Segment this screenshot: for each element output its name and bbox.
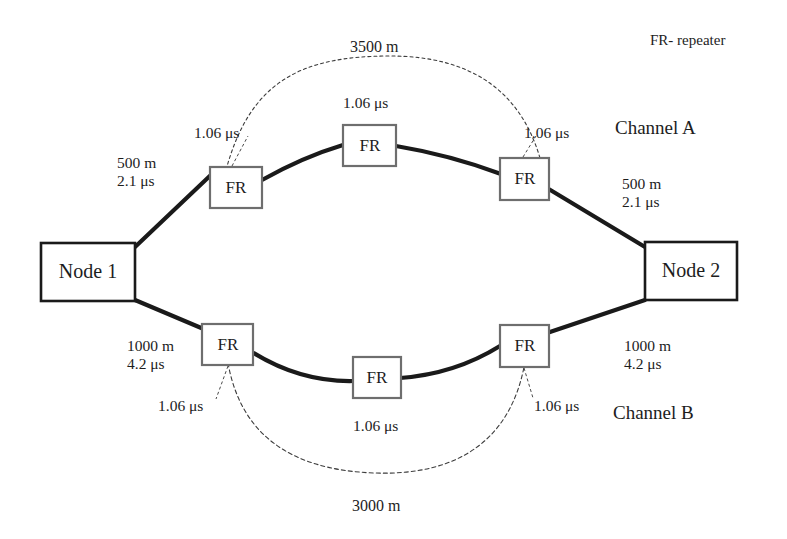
segment-b-right-delay: 4.2 μs bbox=[624, 355, 671, 373]
delay-b-center: 1.06 μs bbox=[353, 417, 398, 435]
node-1-label: Node 1 bbox=[59, 260, 117, 282]
link-a1-to-a2 bbox=[262, 145, 343, 180]
delay-a-left: 1.06 μs bbox=[194, 124, 239, 142]
link-b1-to-b2 bbox=[252, 352, 353, 381]
node-2-label: Node 2 bbox=[662, 259, 720, 281]
repeater-b-center[interactable]: FR bbox=[353, 357, 401, 398]
span-label-channel-b: 3000 m bbox=[352, 497, 400, 516]
link-b3-to-node2 bbox=[547, 300, 645, 333]
segment-b-left: 1000 m 4.2 μs bbox=[127, 337, 174, 374]
span-label-channel-a: 3500 m bbox=[350, 38, 398, 57]
segment-b-left-distance: 1000 m bbox=[127, 337, 174, 355]
segment-b-left-delay: 4.2 μs bbox=[127, 355, 174, 373]
node-2-box[interactable]: Node 2 bbox=[645, 242, 737, 300]
link-b2-to-b3 bbox=[400, 346, 500, 378]
segment-a-left: 500 m 2.1 μs bbox=[117, 154, 156, 191]
repeater-b-center-label: FR bbox=[367, 368, 388, 387]
repeater-b-right-label: FR bbox=[515, 336, 536, 355]
repeater-a-right-label: FR bbox=[515, 169, 536, 188]
leader-b-rep-left bbox=[216, 366, 228, 399]
segment-a-right-distance: 500 m bbox=[622, 175, 661, 193]
network-diagram: Node 1 Node 2 FR FR FR FR FR bbox=[0, 0, 787, 539]
segment-a-right-delay: 2.1 μs bbox=[622, 193, 661, 211]
diagram-canvas: Node 1 Node 2 FR FR FR FR FR bbox=[0, 0, 787, 539]
delay-a-right: 1.06 μs bbox=[524, 124, 569, 142]
delay-b-left: 1.06 μs bbox=[158, 397, 203, 415]
link-node1-to-b1 bbox=[135, 300, 206, 330]
leader-b-rep-right bbox=[524, 368, 533, 398]
legend-fr-repeater: FR- repeater bbox=[650, 32, 725, 50]
repeater-b-left-label: FR bbox=[218, 335, 239, 354]
repeater-b-left[interactable]: FR bbox=[202, 324, 253, 365]
repeater-a-right[interactable]: FR bbox=[500, 158, 549, 200]
segment-a-left-distance: 500 m bbox=[117, 154, 156, 172]
delay-a-center: 1.06 μs bbox=[343, 94, 388, 112]
repeater-a-center[interactable]: FR bbox=[343, 125, 396, 166]
channel-a-name: Channel A bbox=[615, 117, 696, 139]
link-a2-to-a3 bbox=[396, 146, 501, 174]
segment-a-left-delay: 2.1 μs bbox=[117, 172, 156, 190]
node-1-box[interactable]: Node 1 bbox=[41, 243, 135, 301]
segment-b-right: 1000 m 4.2 μs bbox=[624, 337, 671, 374]
segment-b-right-distance: 1000 m bbox=[624, 337, 671, 355]
segment-a-right: 500 m 2.1 μs bbox=[622, 175, 661, 212]
delay-b-right: 1.06 μs bbox=[534, 397, 579, 415]
channel-b-name: Channel B bbox=[613, 402, 694, 424]
repeater-a-left-label: FR bbox=[226, 178, 247, 197]
repeater-a-center-label: FR bbox=[360, 136, 381, 155]
repeater-b-right[interactable]: FR bbox=[500, 325, 549, 367]
repeater-a-left[interactable]: FR bbox=[210, 167, 262, 208]
